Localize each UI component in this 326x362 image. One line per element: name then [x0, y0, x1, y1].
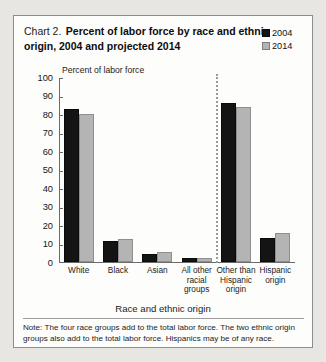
plot-area: 1009080706050403020100 WhiteBlackAsianAl… [59, 78, 295, 263]
bar-group [221, 77, 251, 262]
group-divider [216, 74, 218, 263]
bar-2004[interactable] [64, 109, 79, 262]
bar-2004[interactable] [182, 258, 197, 262]
chart-title-main: Percent of labor force by race and ethni… [24, 25, 269, 52]
bar-2014[interactable] [118, 239, 133, 262]
legend-item-2004: 2004 [262, 28, 292, 38]
bar-2004[interactable] [221, 103, 236, 262]
y-tick-mark [60, 226, 63, 227]
y-tick-mark [60, 189, 63, 190]
y-tick-mark [60, 134, 63, 135]
bar-2004[interactable] [142, 254, 157, 262]
chart-title: Chart 2. Percent of labor force by race … [24, 23, 299, 53]
y-tick-label: 30 [17, 203, 53, 212]
bar-2004[interactable] [103, 241, 118, 262]
y-tick-mark [60, 152, 63, 153]
y-tick-mark [60, 115, 63, 116]
y-tick-mark [60, 171, 63, 172]
x-axis-title: Race and ethnic origin [14, 303, 312, 314]
y-tick-label: 90 [17, 92, 53, 101]
y-tick-mark [60, 97, 63, 98]
y-tick-label: 20 [17, 222, 53, 231]
y-tick-mark [60, 245, 63, 246]
bar-group [142, 77, 172, 262]
y-tick-label: 60 [17, 148, 53, 157]
x-axis-label: Hispanicorigin [244, 266, 306, 285]
bar-2014[interactable] [275, 233, 290, 262]
y-tick-label: 40 [17, 185, 53, 194]
bar-group [182, 77, 212, 262]
y-tick-label: 10 [17, 240, 53, 249]
bar-2014[interactable] [157, 252, 172, 262]
x-axis-line [59, 262, 295, 263]
legend-label-2004: 2004 [272, 28, 292, 38]
chart-figure: Chart 2. Percent of labor force by race … [13, 15, 313, 348]
y-tick-label: 50 [17, 166, 53, 175]
note-separator [23, 318, 304, 319]
bar-group [260, 77, 290, 262]
bar-2014[interactable] [236, 107, 251, 262]
bar-group [103, 77, 133, 262]
legend-label-2014: 2014 [272, 41, 292, 51]
legend-swatch-2014-icon [262, 42, 270, 50]
legend-item-2014: 2014 [262, 41, 292, 51]
y-tick-mark [60, 208, 63, 209]
chart-legend: 2004 2014 [262, 28, 292, 54]
bar-2014[interactable] [79, 114, 94, 262]
y-axis-label: Percent of labor force [62, 65, 144, 75]
y-tick-label: 80 [17, 111, 53, 120]
y-tick-label: 100 [17, 74, 53, 83]
y-tick-label: 70 [17, 129, 53, 138]
chart-note: Note: The four race groups add to the to… [23, 323, 306, 344]
y-tick-mark [60, 78, 63, 79]
chart-title-prefix: Chart 2. [24, 25, 61, 37]
bar-group [64, 77, 94, 262]
legend-swatch-2004-icon [262, 29, 270, 37]
bar-2014[interactable] [197, 258, 212, 262]
bar-2004[interactable] [260, 238, 275, 262]
